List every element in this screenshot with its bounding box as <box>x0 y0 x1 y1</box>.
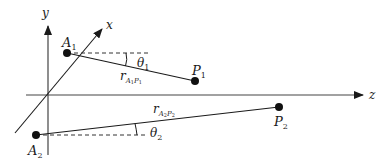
angle-arc-theta2 <box>135 124 137 136</box>
label-theta2: θ2 <box>150 126 162 142</box>
label-r-a1p1: rA1P1 <box>120 69 142 85</box>
x-axis-label: x <box>106 18 113 32</box>
point-p2 <box>275 103 283 111</box>
point-a2 <box>32 131 40 139</box>
vector-a1-p1: A1 P1 θ1 rA1P1 <box>61 35 206 85</box>
y-axis: y <box>41 6 49 155</box>
label-p2: P2 <box>273 114 288 131</box>
label-p1: P1 <box>191 63 206 80</box>
y-axis-label: y <box>41 6 49 20</box>
label-a1: A1 <box>61 35 76 52</box>
label-theta1: θ1 <box>137 56 149 72</box>
vector-a2-p2: A2 P2 θ2 rA2P2 <box>27 102 288 160</box>
angle-arc-theta1 <box>126 53 127 66</box>
point-a1 <box>63 49 71 57</box>
z-axis: z <box>26 88 376 102</box>
coordinate-diagram: y z x A1 P1 θ1 rA1P1 A2 P2 θ2 rA2P2 <box>0 0 390 164</box>
label-a2: A2 <box>27 143 42 160</box>
z-axis-label: z <box>368 88 376 102</box>
point-p1 <box>191 77 199 85</box>
label-r-a2p2: rA2P2 <box>153 102 175 118</box>
